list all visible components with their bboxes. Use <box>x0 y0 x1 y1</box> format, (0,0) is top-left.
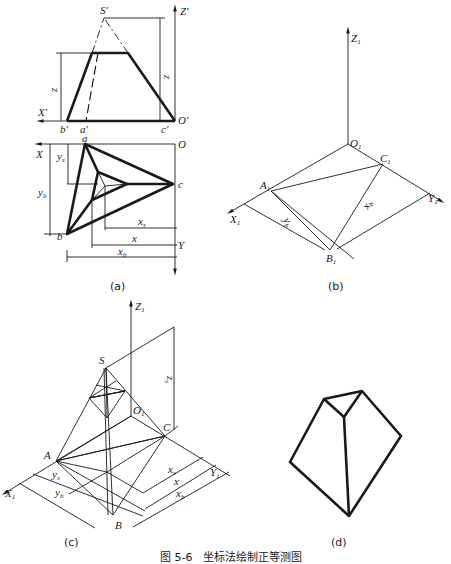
label-z-prime: Z′ <box>180 5 189 17</box>
dim-yb-c: yb <box>54 486 64 500</box>
label-c-c: C <box>163 421 171 433</box>
label-b1: B1 <box>326 252 336 266</box>
dim-yb-b: yb <box>279 214 296 230</box>
dim-zs-c: zs <box>163 375 177 383</box>
label-c-prime: c′ <box>161 123 169 135</box>
xb-line <box>337 193 430 249</box>
label-a1: A1 <box>259 179 270 193</box>
label-y1-c: Y1 <box>210 466 220 480</box>
x1-axis <box>230 144 348 212</box>
label-c1: C1 <box>380 152 391 166</box>
label-a-c: A <box>43 449 51 461</box>
label-s-c: S <box>99 354 105 366</box>
view-a-front: S′ Z′ X′ b′ a′ c′ O′ z z <box>37 4 189 135</box>
label-o-prime: O′ <box>178 114 189 126</box>
subfigure-label-c: (c) <box>64 536 79 549</box>
a-to-s-proj <box>56 461 107 472</box>
s-parallel <box>107 472 143 493</box>
dim-yb: yb <box>37 186 47 200</box>
label-o1-c: O1 <box>133 404 144 418</box>
label-c: c <box>178 178 183 190</box>
label-o1: O1 <box>350 137 361 151</box>
dim-xb-c: xb <box>175 487 185 501</box>
dim-ys-c: ys <box>51 468 60 482</box>
label-a: a <box>82 132 88 144</box>
dim-ys: ys <box>56 150 65 164</box>
label-b-c: B <box>115 519 122 531</box>
label-x-prime: X′ <box>37 106 48 118</box>
subfigure-label-d: (d) <box>331 536 347 549</box>
label-b: b <box>57 230 63 242</box>
label-x1-c: X1 <box>4 487 15 501</box>
view-d: (d) <box>290 391 401 549</box>
label-z1: Z1 <box>351 32 361 46</box>
section-diag-2 <box>96 385 125 391</box>
label-b-prime: b′ <box>60 123 69 135</box>
apex-extension-right <box>104 18 128 53</box>
view-b: Z1 O1 C1 A1 Y1 X1 B1 yb xb (b) <box>229 30 441 293</box>
view-c: S Z1 O1 C A B X1 Y1 zs ys yb xs x xb (c) <box>4 300 230 549</box>
label-o: O <box>178 138 186 150</box>
figure-caption: 图 5-6 坐标法绘制正等测图 <box>160 550 302 564</box>
dim-xb: xb <box>117 245 127 259</box>
frustum-outline <box>67 53 175 121</box>
c-to-s-proj <box>107 436 165 472</box>
section-line-v <box>106 368 107 418</box>
base-triangle <box>67 144 173 234</box>
label-s-prime: S′ <box>100 4 109 16</box>
subfigure-label-a: (a) <box>110 280 125 293</box>
front-edge <box>344 417 349 516</box>
dim-x-c: x <box>173 475 179 487</box>
dim-x: x <box>131 232 137 244</box>
label-z1-c: Z1 <box>135 300 145 314</box>
label-y: Y <box>178 239 186 251</box>
subfigure-label-b: (b) <box>328 280 344 293</box>
zs-extension-c <box>106 327 174 368</box>
label-x: X <box>35 148 44 160</box>
figure-canvas: S′ Z′ X′ b′ a′ c′ O′ z z a O <box>0 0 451 564</box>
view-a-top: a O X c b Y ys yb xs x xb (a) <box>35 132 186 293</box>
top-edge-1 <box>324 399 344 417</box>
apex-extension-left <box>92 18 104 53</box>
label-y1: Y1 <box>428 192 438 206</box>
dim-z: z <box>50 87 62 93</box>
dim-zs: z <box>162 74 174 80</box>
label-x1: X1 <box>229 213 240 227</box>
dim-xs: xs <box>137 215 146 229</box>
o-a <box>56 416 131 461</box>
